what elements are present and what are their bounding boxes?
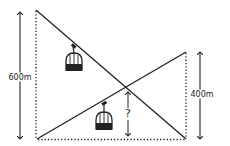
cable-car-diagram [0, 0, 230, 146]
left-height-label: 600m [7, 73, 32, 82]
gondola-2-icon [96, 101, 112, 130]
right-height-label: 400m [189, 90, 214, 99]
unknown-height-label: ? [124, 108, 132, 120]
